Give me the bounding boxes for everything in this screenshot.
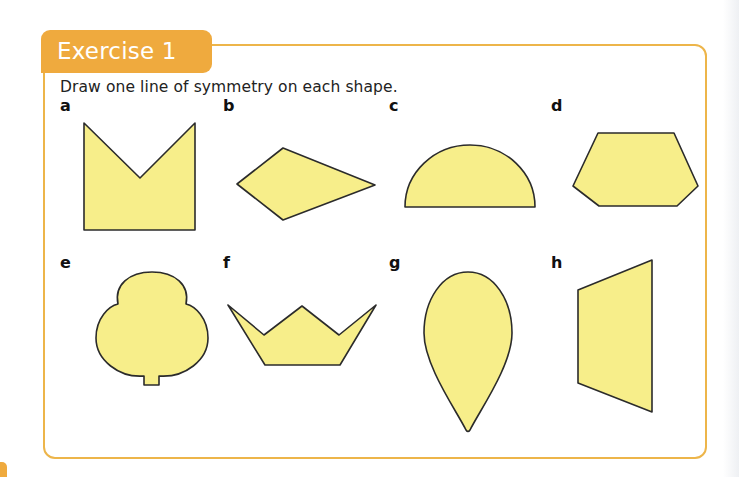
shape-c-semicircle[interactable] [405,145,535,207]
shapes-canvas [0,0,739,477]
page-edge-tab [0,462,7,477]
shape-f-crown[interactable] [228,305,376,365]
shape-a-m-shape[interactable] [84,123,195,230]
shape-h-trapezium[interactable] [578,260,652,412]
shape-g-teardrop[interactable] [424,272,512,432]
shape-d-hexagon[interactable] [573,133,698,206]
shape-e-tree[interactable] [96,272,208,385]
shape-b-kite[interactable] [237,148,375,220]
